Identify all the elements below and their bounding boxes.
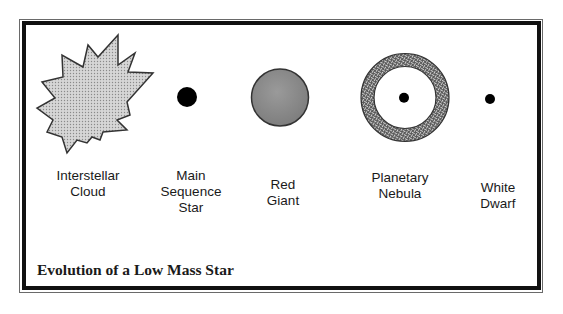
label-line: Giant <box>267 193 299 209</box>
red-giant-icon <box>252 69 309 126</box>
label-red-giant: Red Giant <box>267 177 299 209</box>
interstellar-cloud-icon <box>37 35 153 153</box>
label-line: Red <box>267 177 299 193</box>
label-line: Star <box>161 200 222 216</box>
label-interstellar-cloud: Interstellar Cloud <box>56 168 119 200</box>
label-main-sequence-star: Main Sequence Star <box>161 168 222 216</box>
planetary-nebula-icon <box>361 54 449 142</box>
label-line: White <box>480 180 515 196</box>
diagram-figure: Interstellar Cloud Main Sequence Star Re… <box>0 0 563 314</box>
label-line: Dwarf <box>480 196 515 212</box>
main-sequence-star-icon <box>177 87 197 107</box>
diagram-caption: Evolution of a Low Mass Star <box>37 261 234 279</box>
label-line: Planetary <box>371 170 428 186</box>
label-line: Main <box>161 168 222 184</box>
label-planetary-nebula: Planetary Nebula <box>371 170 428 202</box>
label-white-dwarf: White Dwarf <box>480 180 515 212</box>
label-line: Interstellar <box>56 168 119 184</box>
label-line: Cloud <box>56 184 119 200</box>
label-line: Sequence <box>161 184 222 200</box>
white-dwarf-icon <box>485 94 495 104</box>
label-line: Nebula <box>371 186 428 202</box>
